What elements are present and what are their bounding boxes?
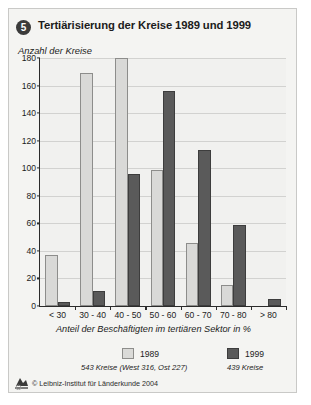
- bar-1999-50-60: [163, 91, 175, 306]
- ytick-mark: [37, 278, 40, 279]
- ytick-label: 40: [26, 246, 36, 256]
- plot-area: 020406080100120140160180< 3030 - 4040 - …: [39, 58, 286, 307]
- legend-swatch-1999: [227, 348, 239, 359]
- xtick-label: 40 - 50: [114, 310, 141, 320]
- xtick-label: 30 - 40: [79, 310, 106, 320]
- ytick-mark: [37, 113, 40, 114]
- bar-1999-<30: [58, 302, 70, 306]
- ytick-label: 80: [26, 191, 36, 201]
- bar-1989-40-50: [115, 58, 127, 306]
- gridline: [40, 86, 286, 87]
- xtick-mark: [181, 306, 182, 310]
- xtick-mark: [286, 306, 287, 310]
- ytick-mark: [37, 250, 40, 251]
- chart-legend: 1989 543 Kreise (West 316, Ost 227) 1999…: [9, 346, 298, 376]
- ytick-label: 60: [26, 218, 36, 228]
- llk-logo-icon: [15, 376, 29, 389]
- xtick-label: < 30: [49, 310, 66, 320]
- ytick-mark: [37, 85, 40, 86]
- copyright-text: © Leibniz-Institut für Länderkunde 2004: [32, 379, 158, 388]
- figure-panel: 5 Tertiärisierung der Kreise 1989 und 19…: [8, 8, 297, 393]
- ytick-label: 180: [22, 53, 36, 63]
- ytick-mark: [37, 195, 40, 196]
- legend-label-1999: 1999: [245, 349, 264, 359]
- legend-note-1999: 439 Kreise: [227, 363, 263, 372]
- figure-number-badge: 5: [16, 20, 31, 35]
- xtick-label: 50 - 60: [150, 310, 177, 320]
- xtick-label: 60 - 70: [185, 310, 212, 320]
- bar-1989-<30: [45, 255, 57, 306]
- figure-header: 5 Tertiärisierung der Kreise 1989 und 19…: [9, 19, 296, 45]
- ytick-label: 0: [31, 301, 36, 311]
- bar-1999-70-80: [233, 225, 245, 306]
- ytick-label: 120: [22, 136, 36, 146]
- bar-1999-40-50: [128, 174, 140, 306]
- xtick-mark: [110, 306, 111, 310]
- ytick-mark: [37, 223, 40, 224]
- bar-1989-50-60: [151, 170, 163, 306]
- bar-1989-60-70: [186, 243, 198, 306]
- xtick-label: > 80: [260, 310, 277, 320]
- legend-swatch-1989: [122, 348, 134, 359]
- legend-note-1989: 543 Kreise (West 316, Ost 227): [81, 363, 187, 372]
- ytick-label: 20: [26, 273, 36, 283]
- legend-label-1989: 1989: [140, 349, 159, 359]
- ytick-mark: [37, 57, 40, 58]
- xtick-mark: [145, 306, 146, 310]
- bar-1989-70-80: [221, 285, 233, 306]
- ytick-mark: [37, 305, 40, 306]
- ytick-label: 140: [22, 108, 36, 118]
- xtick-label: 70 - 80: [220, 310, 247, 320]
- ytick-label: 160: [22, 81, 36, 91]
- xaxis-title: Anteil der Beschäftigten im tertiären Se…: [9, 324, 298, 334]
- bar-1999->80: [268, 299, 280, 306]
- ytick-mark: [37, 168, 40, 169]
- figure-title: Tertiärisierung der Kreise 1989 und 1999: [38, 19, 251, 31]
- ytick-label: 100: [22, 163, 36, 173]
- ytick-mark: [37, 140, 40, 141]
- bar-1999-30-40: [93, 291, 105, 306]
- xtick-mark: [216, 306, 217, 310]
- bar-1999-60-70: [198, 150, 210, 306]
- xtick-mark: [75, 306, 76, 310]
- xtick-mark: [251, 306, 252, 310]
- gridline: [40, 58, 286, 59]
- bar-1989-30-40: [80, 73, 92, 306]
